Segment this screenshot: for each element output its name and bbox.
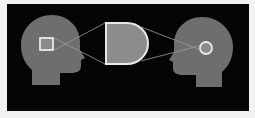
circle-concept [200, 42, 212, 54]
square-concept [40, 38, 53, 50]
d-shape-concept [106, 23, 148, 64]
diagram-canvas [0, 0, 255, 118]
